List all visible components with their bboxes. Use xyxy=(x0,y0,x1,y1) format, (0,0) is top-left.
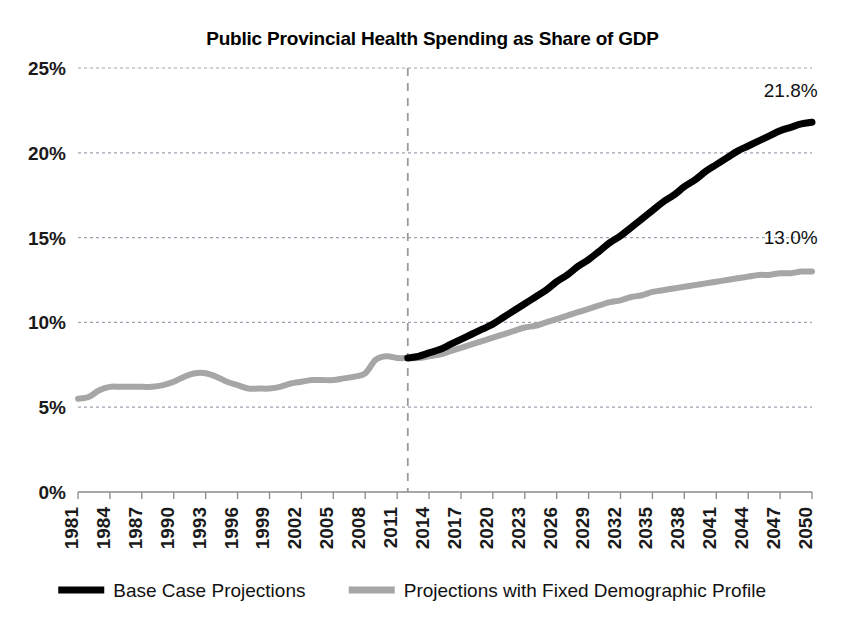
series-line-0 xyxy=(78,271,812,398)
x-tick-label-20: 2041 xyxy=(699,507,720,550)
series-group xyxy=(78,122,812,398)
x-tick-label-5: 1996 xyxy=(221,507,242,549)
x-tick-label-14: 2023 xyxy=(508,507,529,549)
y-tick-label-1: 20% xyxy=(28,143,66,164)
x-tick-label-2: 1987 xyxy=(125,507,146,549)
x-tick-label-11: 2014 xyxy=(412,507,433,550)
x-tick-label-15: 2026 xyxy=(540,507,561,549)
x-tick-label-18: 2035 xyxy=(635,507,656,550)
y-tick-label-4: 5% xyxy=(39,397,67,418)
y-axis-labels: 25%20%15%10%5%0% xyxy=(28,58,66,503)
x-tick-label-9: 2008 xyxy=(348,507,369,549)
x-tick-label-22: 2047 xyxy=(763,507,784,549)
x-tick-label-3: 1990 xyxy=(157,507,178,549)
y-tick-label-5: 0% xyxy=(39,482,67,503)
chart-container: Public Provincial Health Spending as Sha… xyxy=(0,0,865,636)
chart-legend: Base Case ProjectionsProjections with Fi… xyxy=(58,580,766,601)
x-tick-label-21: 2044 xyxy=(731,507,752,550)
x-tick-label-12: 2017 xyxy=(444,507,465,549)
data-point-labels: 21.8%13.0% xyxy=(764,80,818,249)
x-tick-label-13: 2020 xyxy=(476,507,497,549)
x-axis-labels: 1981198419871990199319961999200220052008… xyxy=(61,507,816,550)
x-tick-label-0: 1981 xyxy=(61,507,82,550)
x-tick-label-19: 2038 xyxy=(667,507,688,549)
x-tick-label-8: 2005 xyxy=(316,507,337,550)
x-tick-label-17: 2032 xyxy=(604,507,625,549)
x-tick-label-16: 2029 xyxy=(572,507,593,549)
x-tick-label-6: 1999 xyxy=(252,507,273,549)
x-tick-label-10: 2011 xyxy=(380,507,401,549)
x-tick-label-23: 2050 xyxy=(795,507,816,549)
data-label-1: 13.0% xyxy=(764,227,818,248)
legend-label-0: Base Case Projections xyxy=(113,580,305,601)
legend-label-1: Projections with Fixed Demographic Profi… xyxy=(404,580,766,601)
x-tick-label-4: 1993 xyxy=(189,507,210,549)
x-tick-label-1: 1984 xyxy=(93,507,114,550)
data-label-0: 21.8% xyxy=(764,80,818,101)
chart-plot-area: 25%20%15%10%5%0% 19811984198719901993199… xyxy=(0,0,865,636)
x-tick-label-7: 2002 xyxy=(284,507,305,549)
gridlines-group xyxy=(78,68,812,407)
y-tick-label-3: 10% xyxy=(28,312,66,333)
y-tick-label-2: 15% xyxy=(28,228,66,249)
tick-marks-group xyxy=(78,492,812,499)
y-tick-label-0: 25% xyxy=(28,58,66,79)
